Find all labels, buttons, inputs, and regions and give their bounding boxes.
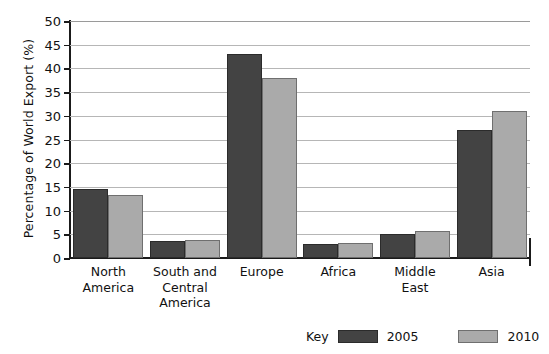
bar-chart: Percentage of World Export (%) 051015202… bbox=[0, 0, 549, 354]
x-axis-label: South andCentralAmerica bbox=[147, 264, 224, 311]
bar-2005-north-america bbox=[73, 189, 108, 258]
bar-2010-south-and-central-america bbox=[185, 240, 220, 258]
y-axis-tick-label: 50 bbox=[44, 14, 61, 29]
x-axis-label-line: America bbox=[70, 280, 147, 296]
x-axis-label: Europe bbox=[223, 264, 300, 280]
bar-2010-middle-east bbox=[415, 231, 450, 258]
x-axis-label: Africa bbox=[300, 264, 377, 280]
y-axis-tick-label: 0 bbox=[53, 251, 61, 266]
bar-group bbox=[300, 21, 377, 258]
legend-label-2005: 2005 bbox=[387, 329, 419, 344]
bar-2005-middle-east bbox=[380, 234, 415, 258]
y-axis-title: Percentage of World Export (%) bbox=[21, 14, 36, 264]
y-axis-tick-label: 40 bbox=[44, 61, 61, 76]
y-axis-tick-label: 20 bbox=[44, 156, 61, 171]
bar-2005-asia bbox=[457, 130, 492, 258]
y-axis-tick-label: 5 bbox=[53, 227, 61, 242]
x-axis-label-line: Europe bbox=[223, 264, 300, 280]
x-axis-label-line: Asia bbox=[453, 264, 530, 280]
y-axis-tick-label: 25 bbox=[44, 132, 61, 147]
legend-swatch-2010 bbox=[458, 330, 498, 343]
bar-2010-asia bbox=[492, 111, 527, 258]
x-axis-label-line: South and bbox=[147, 264, 224, 280]
x-axis-label-line: North bbox=[70, 264, 147, 280]
y-axis-tick-label: 30 bbox=[44, 108, 61, 123]
y-axis-tick-label: 45 bbox=[44, 37, 61, 52]
bar-2005-south-and-central-america bbox=[150, 241, 185, 258]
x-axis-label: NorthAmerica bbox=[70, 264, 147, 295]
plot-area: 05101520253035404550 bbox=[70, 21, 530, 258]
bar-2010-europe bbox=[262, 78, 297, 258]
legend: Key 2005 2010 bbox=[306, 327, 539, 345]
y-axis-tick-label: 10 bbox=[44, 203, 61, 218]
bar-group bbox=[377, 21, 454, 258]
bar-group bbox=[147, 21, 224, 258]
legend-label-2010: 2010 bbox=[507, 329, 539, 344]
bar-2005-europe bbox=[227, 54, 262, 258]
bar-2010-north-america bbox=[108, 195, 143, 258]
legend-title: Key bbox=[306, 329, 329, 344]
bar-2005-africa bbox=[303, 244, 338, 258]
x-axis-label-line: East bbox=[377, 280, 454, 296]
x-axis-label-line: Central bbox=[147, 280, 224, 296]
bar-group bbox=[453, 21, 530, 258]
bar-2010-africa bbox=[338, 243, 373, 258]
x-axis-label-line: America bbox=[147, 295, 224, 311]
x-axis-label-line: Middle bbox=[377, 264, 454, 280]
x-axis-label-line: Africa bbox=[300, 264, 377, 280]
x-axis-label: Asia bbox=[453, 264, 530, 280]
bar-group bbox=[223, 21, 300, 258]
y-axis-tick-label: 15 bbox=[44, 179, 61, 194]
legend-swatch-2005 bbox=[338, 330, 378, 343]
y-axis-tick-label: 35 bbox=[44, 85, 61, 100]
x-axis-label: MiddleEast bbox=[377, 264, 454, 295]
bar-group bbox=[70, 21, 147, 258]
y-axis-tick-mark bbox=[64, 258, 70, 260]
